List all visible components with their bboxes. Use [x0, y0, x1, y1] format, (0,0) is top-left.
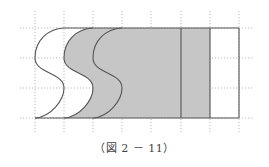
shaded-region — [64, 28, 210, 118]
figure-caption: （図 2 － 11） — [0, 139, 269, 155]
s-curve-curve-1 — [35, 28, 64, 118]
